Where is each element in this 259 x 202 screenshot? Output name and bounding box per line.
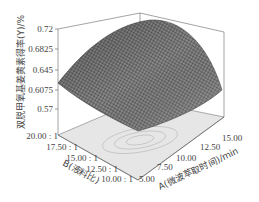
a-tick: 7.50 bbox=[157, 162, 173, 172]
a-tick: 10.00 bbox=[176, 153, 197, 163]
b-tick: 20.00 : 1 bbox=[26, 131, 58, 141]
b-tick: 10.00 : 1 bbox=[101, 174, 133, 184]
z-tick: 0.57 bbox=[37, 104, 53, 114]
surface-plot: 0.72 0.6825 0.645 0.6075 0.57 20.00 : 1 … bbox=[0, 0, 259, 202]
a-tick: 5.00 bbox=[139, 174, 155, 184]
z-tick: 0.6825 bbox=[28, 44, 53, 54]
z-axis-label: 双脱甲氧基姜黄素得率(Y)/% bbox=[15, 15, 26, 130]
z-tick: 0.72 bbox=[37, 24, 53, 34]
z-tick: 0.6075 bbox=[28, 85, 53, 95]
a-tick: 12.50 bbox=[200, 142, 221, 152]
z-tick: 0.645 bbox=[33, 65, 54, 75]
a-tick: 15.00 bbox=[222, 133, 243, 143]
b-tick: 17.50 : 1 bbox=[46, 142, 78, 152]
z-axis-ticks: 0.72 0.6825 0.645 0.6075 0.57 bbox=[28, 24, 58, 114]
